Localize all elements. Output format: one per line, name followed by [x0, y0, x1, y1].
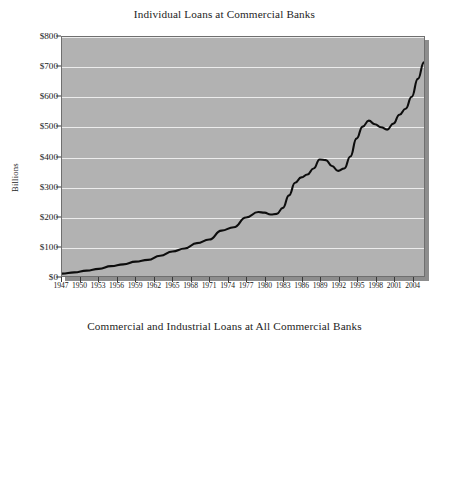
x-axis-tick-label: 1953 [91, 281, 106, 290]
x-axis-tick-label: 1992 [331, 281, 346, 290]
x-axis-tick-labels: 1947195019531956195919621965196819711974… [61, 281, 425, 293]
chart-title: Individual Loans at Commercial Banks [0, 8, 449, 20]
x-axis-tick-label: 1959 [128, 281, 143, 290]
y-axis-tick-label: $700 [0, 61, 58, 71]
series-line-individual-loans [62, 62, 424, 273]
plot-area [61, 36, 425, 277]
chart-title: Commercial and Industrial Loans at All C… [0, 320, 449, 332]
series-canvas [62, 37, 424, 276]
y-axis-tick-label: $200 [0, 212, 58, 222]
x-axis-tick-label: 2004 [405, 281, 420, 290]
x-axis-tick-label: 1995 [350, 281, 365, 290]
y-axis-tick-label: $0 [0, 272, 58, 282]
x-axis-tick-label: 1962 [146, 281, 161, 290]
x-axis-tick-label: 1956 [109, 281, 124, 290]
x-axis-tick-label: 1968 [183, 281, 198, 290]
x-axis-tick-label: 1947 [54, 281, 69, 290]
y-axis-tick-label: $400 [0, 152, 58, 162]
x-axis-tick-label: 1965 [165, 281, 180, 290]
chart-figure-commercial-industrial-loans: Commercial and Industrial Loans at All C… [0, 310, 449, 477]
y-axis-tick-label: $100 [0, 242, 58, 252]
chart-figure-individual-loans: Individual Loans at Commercial Banks Bil… [0, 0, 449, 297]
x-axis-tick-label: 2001 [387, 281, 402, 290]
x-axis-tick-label: 1989 [313, 281, 328, 290]
y-axis-tick-label: $800 [0, 31, 58, 41]
x-axis-tick-label: 1986 [294, 281, 309, 290]
x-axis-tick-label: 1971 [202, 281, 217, 290]
y-axis-tick-label: $600 [0, 91, 58, 101]
x-axis-tick-label: 1983 [276, 281, 291, 290]
document-page: Individual Loans at Commercial Banks Bil… [0, 0, 449, 477]
x-axis-tick-label: 1980 [257, 281, 272, 290]
y-axis-tick-label: $300 [0, 182, 58, 192]
y-axis-tick-label: $500 [0, 121, 58, 131]
plot-area-wrapper [61, 36, 425, 277]
x-axis-tick-label: 1974 [220, 281, 235, 290]
x-axis-tick-label: 1950 [72, 281, 87, 290]
x-axis-tick-label: 1977 [239, 281, 254, 290]
y-axis-tick-labels: $0$100$200$300$400$500$600$700$800 [0, 36, 58, 277]
x-axis-tick-label: 1998 [368, 281, 383, 290]
